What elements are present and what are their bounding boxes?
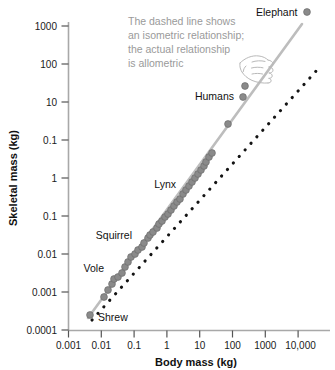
data-point-shrew <box>87 312 94 319</box>
data-point <box>209 150 216 157</box>
y-axis-tick-labels: 1000 100 10 0.1 1 0.1 0.01 0.001 0.0001 <box>26 21 57 336</box>
x-tick-label: 1 <box>164 340 170 351</box>
y-axis-title: Skeletal mass (kg) <box>7 130 19 226</box>
data-point <box>225 121 232 128</box>
x-tick-label: 10 <box>194 340 206 351</box>
data-point-humans <box>240 94 247 101</box>
x-axis-tick-labels: 0.001 0.01 0.1 1 10 100 1000 10,000 <box>56 340 316 351</box>
y-tick-label: 0.001 <box>32 287 57 298</box>
label-vole: Vole <box>84 262 105 274</box>
label-humans: Humans <box>195 90 234 102</box>
x-axis-ticks <box>69 331 299 338</box>
annotation-line-4: is allometric <box>128 57 183 69</box>
y-axis-ticks <box>62 26 69 330</box>
y-tick-label: 0.1 <box>43 135 57 146</box>
x-tick-label: 0.1 <box>127 340 141 351</box>
data-point-group <box>87 9 311 319</box>
annotation-line-1: The dashed line shows <box>128 15 235 27</box>
label-elephant: Elephant <box>256 6 298 18</box>
annotation-line-3: the actual relationship <box>128 43 230 55</box>
y-tick-label: 1 <box>51 173 57 184</box>
y-tick-label: 100 <box>40 59 57 70</box>
chart-canvas: 1000 100 10 0.1 1 0.1 0.01 0.001 0.0001 … <box>0 0 335 370</box>
data-point-humans <box>242 83 249 90</box>
x-tick-label: 10,000 <box>285 340 316 351</box>
y-tick-label: 0.01 <box>38 249 58 260</box>
data-point <box>101 294 108 301</box>
y-tick-label: 0.1 <box>43 211 57 222</box>
annotation-line-2: an isometric relationship; <box>128 29 244 41</box>
data-point <box>105 287 112 294</box>
y-tick-label: 1000 <box>35 21 58 32</box>
x-axis-title: Body mass (kg) <box>155 356 237 368</box>
x-tick-label: 100 <box>224 340 241 351</box>
y-tick-label: 0.0001 <box>26 325 57 336</box>
x-tick-label: 0.01 <box>92 340 112 351</box>
label-lynx: Lynx <box>154 178 177 190</box>
x-tick-label: 0.001 <box>56 340 81 351</box>
label-squirrel: Squirrel <box>96 229 132 241</box>
annotation-note: The dashed line shows an isometric relat… <box>128 15 244 69</box>
x-tick-label: 1000 <box>254 340 277 351</box>
isometric-reference-line <box>92 70 317 320</box>
scatter-plot-figure: 1000 100 10 0.1 1 0.1 0.01 0.001 0.0001 … <box>0 0 335 370</box>
label-shrew: Shrew <box>98 311 128 323</box>
data-point-elephant <box>304 9 311 16</box>
y-tick-label: 10 <box>46 97 58 108</box>
